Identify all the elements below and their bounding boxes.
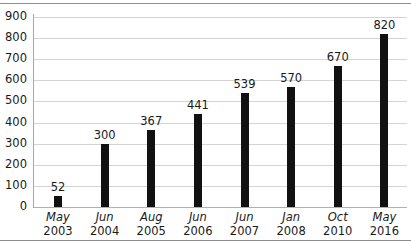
category-label-year: 2003 xyxy=(43,225,72,239)
category-label-month: Jun xyxy=(230,211,259,225)
gridline-700: 700 xyxy=(34,59,407,60)
category-label: Aug2005 xyxy=(137,211,166,238)
bar xyxy=(54,196,62,207)
bar xyxy=(194,114,202,207)
bar-value-label: 300 xyxy=(94,129,116,141)
bar xyxy=(101,144,109,207)
y-axis-tick-label: 300 xyxy=(5,138,27,150)
gridline-0: 0 xyxy=(34,207,407,208)
gridline-900: 900 xyxy=(34,17,407,18)
category-label: Jun2004 xyxy=(90,211,119,238)
gridline-300: 300 xyxy=(34,144,407,145)
category-label-year: 2006 xyxy=(183,225,212,239)
bar-value-label: 441 xyxy=(187,99,209,111)
category-label: May2016 xyxy=(370,211,399,238)
category-label-year: 2005 xyxy=(137,225,166,239)
y-axis-tick-label: 100 xyxy=(5,180,27,192)
category-label-month: Jun xyxy=(183,211,212,225)
category-label: Oct2010 xyxy=(323,211,352,238)
bar-chart-figure: 0100200300400500600700800900 52300367441… xyxy=(0,0,411,245)
category-label-month: May xyxy=(43,211,72,225)
gridline-200: 200 xyxy=(34,165,407,166)
y-axis-tick-label: 700 xyxy=(5,53,27,65)
bar-value-label: 52 xyxy=(51,182,66,194)
bar xyxy=(287,87,295,207)
figure-bottom-rule xyxy=(0,240,411,241)
category-label-month: Aug xyxy=(137,211,166,225)
category-label-month: Jun xyxy=(90,211,119,225)
gridline-100: 100 xyxy=(34,186,407,187)
gridline-600: 600 xyxy=(34,80,407,81)
y-axis-tick-label: 500 xyxy=(5,96,27,108)
category-label-year: 2010 xyxy=(323,225,352,239)
category-label-month: Jan xyxy=(276,211,305,225)
bar-value-label: 570 xyxy=(280,72,302,84)
category-label-month: May xyxy=(370,211,399,225)
bar xyxy=(380,34,388,207)
y-axis-tick-label: 200 xyxy=(5,159,27,171)
category-label-year: 2004 xyxy=(90,225,119,239)
category-label-year: 2007 xyxy=(230,225,259,239)
category-label: Jun2007 xyxy=(230,211,259,238)
category-label-year: 2016 xyxy=(370,225,399,239)
bar-value-label: 367 xyxy=(140,115,162,127)
bar xyxy=(147,130,155,207)
y-axis-tick-label: 400 xyxy=(5,117,27,129)
gridline-800: 800 xyxy=(34,38,407,39)
y-axis-tick-label: 600 xyxy=(5,75,27,87)
y-axis-tick-label: 800 xyxy=(5,32,27,44)
bar-value-label: 820 xyxy=(373,19,395,31)
y-axis-tick-label: 0 xyxy=(20,201,27,213)
category-label-year: 2008 xyxy=(276,225,305,239)
category-label-month: Oct xyxy=(323,211,352,225)
gridline-400: 400 xyxy=(34,123,407,124)
category-label: May2003 xyxy=(43,211,72,238)
gridline-500: 500 xyxy=(34,101,407,102)
bar xyxy=(241,93,249,207)
y-axis-tick-label: 900 xyxy=(5,11,27,23)
bar-value-label: 670 xyxy=(327,51,349,63)
category-label: Jun2006 xyxy=(183,211,212,238)
category-label: Jan2008 xyxy=(276,211,305,238)
bar-value-label: 539 xyxy=(234,79,256,91)
bar xyxy=(334,66,342,207)
figure-top-rule xyxy=(0,3,411,4)
plot-area: 0100200300400500600700800900 52300367441… xyxy=(34,17,407,207)
